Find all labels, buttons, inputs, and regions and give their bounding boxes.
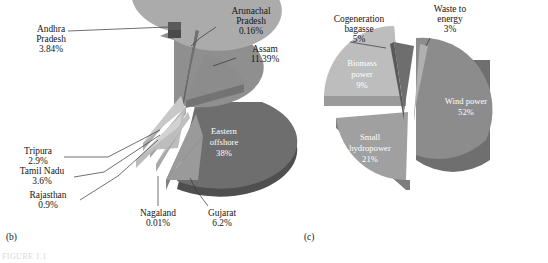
panel-id-b: (b)	[6, 232, 17, 242]
figure-pie-charts: Western offshore 33% Eastern offshore 38…	[0, 0, 548, 263]
slice-label-wind-power: Wind power	[445, 96, 488, 106]
svg-text:9%: 9%	[356, 80, 367, 90]
svg-text:hydropower: hydropower	[349, 143, 391, 153]
panel-id-c: (c)	[304, 232, 314, 242]
callout-nagaland: Nagaland 0.01%	[128, 208, 188, 228]
leader-rajasthan	[80, 140, 158, 200]
callout-waste-to-energy: Waste to energy 3%	[420, 4, 480, 34]
svg-text:offshore: offshore	[134, 71, 163, 81]
slice-label-western-offshore: Western	[134, 60, 163, 70]
svg-text:52%: 52%	[458, 107, 474, 117]
slice-label-biomass-power: Biomass	[347, 58, 377, 68]
svg-text:38%: 38%	[216, 148, 232, 158]
slice-andhra-pradesh[interactable]	[168, 22, 181, 38]
svg-text:21%: 21%	[362, 154, 378, 164]
callout-assam: Assam 11.39%	[238, 44, 292, 64]
leader-andhra-pradesh	[68, 27, 168, 31]
callout-gujarat: Gujarat 6.2%	[196, 208, 248, 228]
callout-andhra-pradesh: Andhra Pradesh 3.84%	[22, 24, 80, 54]
callout-tripura: Tripura 2.9%	[12, 146, 64, 166]
callout-cogeneration-bagasse: Cogeneration bagasse 5%	[318, 14, 400, 44]
slice-label-eastern-offshore: Eastern	[211, 126, 237, 136]
svg-text:power: power	[351, 69, 373, 79]
callout-arunachal-pradesh: Arunachal Pradesh 0.16%	[218, 6, 284, 36]
callout-rajasthan: Rajasthan 0.9%	[18, 190, 78, 210]
svg-text:offshore: offshore	[210, 137, 239, 147]
svg-text:33%: 33%	[140, 82, 156, 92]
figure-caption: FIGURE 1.1	[2, 252, 47, 261]
slice-label-small-hydropower: Small	[360, 132, 381, 142]
callout-tamil-nadu: Tamil Nadu 3.6%	[10, 166, 74, 186]
